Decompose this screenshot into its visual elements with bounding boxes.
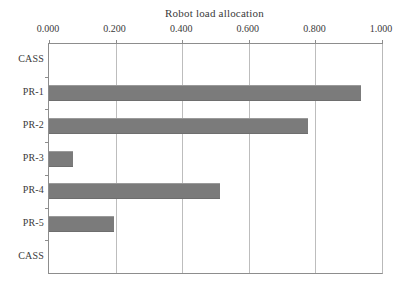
x-tick-mark-1 xyxy=(116,40,117,44)
y-axis-category-labels: CASSPR-1PR-2PR-3PR-4PR-5CASS xyxy=(0,43,44,272)
x-tick-label-0: 0.000 xyxy=(37,23,60,35)
x-tick-label-3: 0.600 xyxy=(237,23,260,35)
y-category-label-5: PR-5 xyxy=(23,217,44,229)
y-category-label-6: CASS xyxy=(18,250,44,262)
y-tick-mark-1 xyxy=(45,109,49,110)
bar-pr-4-4 xyxy=(49,183,220,199)
x-tick-label-2: 0.400 xyxy=(170,23,193,35)
bar-pr-1-1 xyxy=(49,85,361,101)
y-tick-mark-3 xyxy=(45,175,49,176)
x-tick-label-1: 0.200 xyxy=(103,23,126,35)
chart-title: Robot load allocation xyxy=(48,7,381,20)
caption-sliver xyxy=(4,277,399,284)
bar-pr-3-3 xyxy=(49,151,73,167)
bar-chart-figure: Robot load allocation 0.0000.2000.4000.6… xyxy=(0,0,403,284)
bars-layer xyxy=(49,44,382,273)
bar-pr-2-2 xyxy=(49,118,308,134)
x-tick-mark-2 xyxy=(182,40,183,44)
x-tick-mark-3 xyxy=(249,40,250,44)
x-tick-label-5: 1.000 xyxy=(370,23,393,35)
y-category-label-3: PR-3 xyxy=(23,152,44,164)
y-category-label-1: PR-1 xyxy=(23,86,44,98)
y-tick-mark-0 xyxy=(45,77,49,78)
y-category-label-2: PR-2 xyxy=(23,119,44,131)
y-tick-mark-2 xyxy=(45,142,49,143)
x-tick-mark-4 xyxy=(315,40,316,44)
plot-area xyxy=(48,43,383,274)
x-tick-label-4: 0.800 xyxy=(303,23,326,35)
y-tick-mark-5 xyxy=(45,240,49,241)
y-category-label-0: CASS xyxy=(18,53,44,65)
y-tick-mark-4 xyxy=(45,208,49,209)
bar-pr-5-5 xyxy=(49,216,114,232)
x-tick-mark-0 xyxy=(49,40,50,44)
x-axis-tick-labels: 0.0000.2000.4000.6000.8001.000 xyxy=(0,23,403,37)
x-tick-mark-5 xyxy=(382,40,383,44)
y-category-label-4: PR-4 xyxy=(23,184,44,196)
